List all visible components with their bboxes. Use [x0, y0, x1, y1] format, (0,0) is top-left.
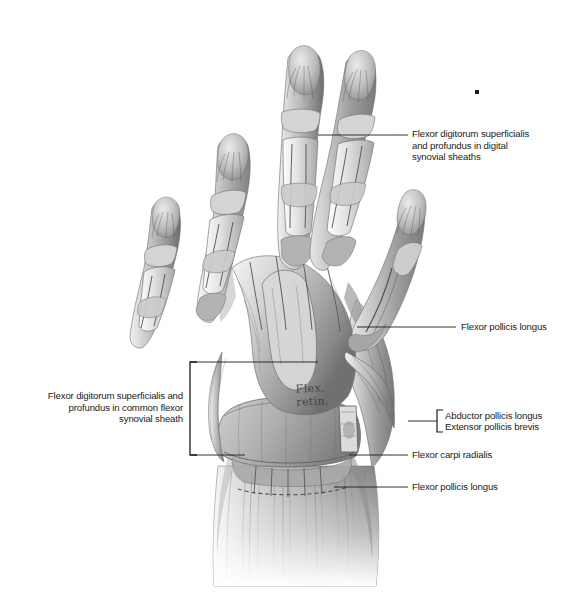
- bracket-apl-epb: [437, 410, 443, 432]
- finger-ring: [196, 134, 250, 323]
- label-flexor-digitorum-common: Flexor digitorum superficialis and profu…: [8, 390, 183, 425]
- palm-group: [220, 254, 367, 415]
- label-flexor-carpi-radialis: Flexor carpi radialis: [412, 449, 552, 461]
- registration-dot-mark: [475, 90, 479, 94]
- finger-little: [130, 197, 180, 348]
- hand-dissection-illustration: [0, 0, 586, 608]
- anatomy-figure-page: Flexor digitorum superficialis and profu…: [0, 0, 586, 608]
- label-abductor-pollicis-longus: Abductor pollicis longus: [445, 410, 583, 422]
- label-flexor-pollicis-longus-upper: Flexor pollicis longus: [461, 321, 583, 333]
- label-flexor-pollicis-longus-lower: Flexor pollicis longus: [412, 481, 552, 493]
- label-extensor-pollicis-brevis: Extensor pollicis brevis: [445, 421, 583, 433]
- label-flexor-digitorum-digital: Flexor digitorum superficialis and profu…: [412, 128, 580, 163]
- bracket-common-sheath: [190, 362, 197, 455]
